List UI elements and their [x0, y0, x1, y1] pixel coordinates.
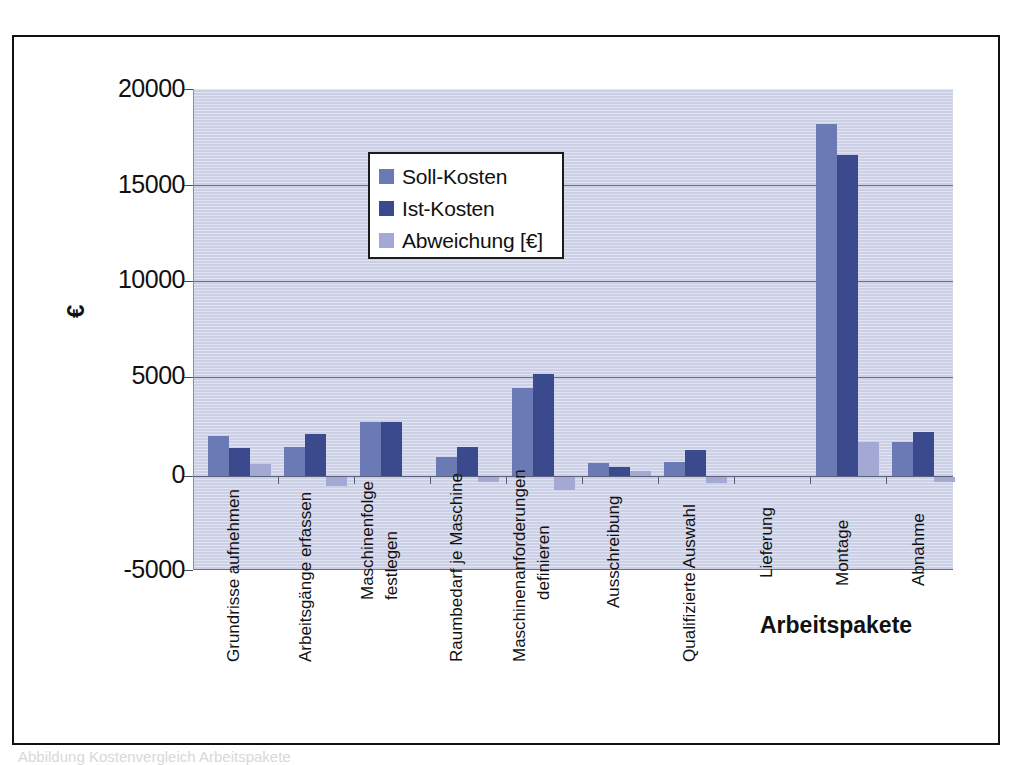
x-category-label-maschinenanforderungen: Maschinenanforderungen	[510, 469, 530, 662]
legend-swatch-soll-kosten	[379, 169, 394, 184]
y-tick-label: 0	[65, 460, 185, 489]
legend-label-ist-kosten: Ist-Kosten	[402, 198, 495, 219]
legend-swatch-ist-kosten	[379, 201, 394, 216]
y-tick-label: 10000	[65, 265, 185, 294]
legend-swatch-abweichung	[379, 233, 394, 248]
x-category-label-line2: definieren	[534, 525, 553, 600]
y-tick-mark	[184, 281, 193, 282]
x-category-label-grundrisse-aufnehmen: Grundrisse aufnehmen	[224, 489, 244, 662]
bar-abw-3	[478, 477, 499, 482]
x-tick-mark	[506, 477, 507, 484]
x-tick-mark	[734, 477, 735, 484]
bar-abw-9	[934, 477, 955, 482]
y-tick-label: -5000	[65, 555, 185, 584]
bar-ist-0	[229, 448, 250, 476]
legend: Soll-Kosten Ist-Kosten Abweichung [€]	[368, 152, 564, 259]
x-category-label-arbeitsgaenge-erfassen: Arbeitsgänge erfassen	[296, 492, 316, 662]
y-tick-label: 20000	[65, 74, 185, 103]
legend-item-soll-kosten: Soll-Kosten	[379, 160, 554, 192]
bar-ist-9	[913, 432, 934, 476]
x-category-label-line1: Raumbedarf je Maschine	[447, 473, 466, 662]
x-category-label-line1: Maschinenanforderungen	[510, 469, 529, 662]
bar-soll-8	[816, 124, 837, 476]
y-tick-label: 5000	[65, 361, 185, 390]
y-tick-mark	[184, 476, 193, 477]
x-category-label-maschinenfolge-festlegen: Maschinenfolge	[358, 481, 378, 600]
legend-label-soll-kosten: Soll-Kosten	[402, 166, 507, 187]
x-category-label-raumbedarf-je-maschine: Raumbedarf je Maschine	[447, 473, 467, 662]
bar-abw-0	[250, 464, 271, 476]
bar-abw-4	[554, 477, 575, 490]
bar-soll-1	[284, 447, 305, 476]
y-tick-mark	[184, 89, 193, 90]
bar-ist-1	[305, 434, 326, 476]
x-axis-title: Arbeitspakete	[760, 612, 912, 639]
x-tick-mark	[582, 477, 583, 484]
figure-caption: Abbildung Kostenvergleich Arbeitspakete	[18, 748, 291, 765]
bar-soll-6	[664, 462, 685, 476]
x-category-label-montage: Montage	[833, 520, 853, 586]
x-tick-mark	[658, 477, 659, 484]
bar-soll-9	[892, 442, 913, 476]
y-tick-mark	[184, 185, 193, 186]
bar-ist-5	[609, 467, 630, 476]
bar-ist-3	[457, 447, 478, 476]
bar-ist-2	[381, 422, 402, 476]
x-category-label-lieferung: Lieferung	[757, 507, 777, 578]
bar-soll-0	[208, 436, 229, 476]
bar-abw-1	[326, 477, 347, 486]
legend-label-abweichung: Abweichung [€]	[402, 230, 543, 251]
x-category-label-line1: Maschinenfolge	[358, 481, 377, 600]
bar-ist-8	[837, 155, 858, 476]
x-category-label-abnahme: Abnahme	[909, 513, 929, 586]
bar-soll-2	[360, 422, 381, 476]
bar-abw-5	[630, 471, 651, 476]
legend-item-abweichung: Abweichung [€]	[379, 224, 554, 256]
bar-soll-5	[588, 463, 609, 476]
x-category-label-ausschreibung: Ausschreibung	[604, 496, 624, 608]
x-tick-mark	[886, 477, 887, 484]
bar-abw-6	[706, 477, 727, 483]
x-tick-mark	[430, 477, 431, 484]
bar-soll-4	[512, 388, 533, 476]
y-tick-mark	[184, 570, 193, 571]
bar-ist-4	[533, 374, 554, 476]
x-category-label-maschinenfolge-festlegen-line2: festlegen	[382, 531, 402, 600]
x-tick-mark	[354, 477, 355, 484]
bar-abw-8	[858, 442, 879, 476]
bar-ist-6	[685, 450, 706, 476]
x-category-label-line2: festlegen	[382, 531, 401, 600]
y-axis-title: €	[62, 305, 90, 318]
legend-item-ist-kosten: Ist-Kosten	[379, 192, 554, 224]
x-tick-mark	[278, 477, 279, 484]
y-tick-label: 15000	[65, 170, 185, 199]
y-tick-mark	[184, 377, 193, 378]
x-tick-mark	[810, 477, 811, 484]
x-category-label-maschinenanforderungen-line2: definieren	[534, 525, 554, 600]
x-category-label-qualifizierte-auswahl: Qualifizierte Auswahl	[680, 504, 700, 662]
y-axis: 20000 15000 10000 5000 0 -5000	[55, 0, 185, 764]
